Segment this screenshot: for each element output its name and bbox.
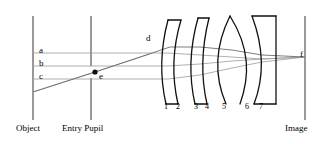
ray-label-f: f <box>300 50 303 59</box>
lens-surface-3 <box>191 18 198 104</box>
ray-c <box>33 57 305 79</box>
lens-number-4: 4 <box>205 103 209 111</box>
lens-surface-1 <box>162 20 168 104</box>
lens-surface-7 <box>252 16 261 104</box>
ray-label-a: a <box>39 46 43 55</box>
point-e-marker <box>92 69 97 74</box>
lens-number-2: 2 <box>176 103 180 111</box>
ray-chief <box>33 47 305 92</box>
plane-label-object: Object <box>16 124 40 133</box>
plane-label-image: Image <box>285 124 308 133</box>
lens-surface-2 <box>174 20 181 104</box>
ray-label-d: d <box>146 34 151 43</box>
ray-a <box>33 53 305 59</box>
optical-ray-diagram: a b c d f e 1 2 3 4 5 6 7 Object Entry P… <box>0 0 328 144</box>
lens-surface-5 <box>217 16 230 104</box>
ray-d <box>33 47 305 92</box>
lens-number-1: 1 <box>164 103 168 111</box>
lens-surface-4 <box>203 18 209 104</box>
plane-label-entry-pupil: Entry Pupil <box>62 124 103 133</box>
lens-group <box>162 16 276 104</box>
lens-number-7: 7 <box>259 103 263 111</box>
ray-bundle <box>33 53 305 92</box>
ray-label-c: c <box>39 72 43 81</box>
lens-number-5: 5 <box>222 103 226 111</box>
lens-number-6: 6 <box>245 103 249 111</box>
lens-number-3: 3 <box>194 103 198 111</box>
ray-label-b: b <box>39 59 44 68</box>
diagram-canvas <box>0 0 328 144</box>
point-label-e: e <box>99 72 103 81</box>
